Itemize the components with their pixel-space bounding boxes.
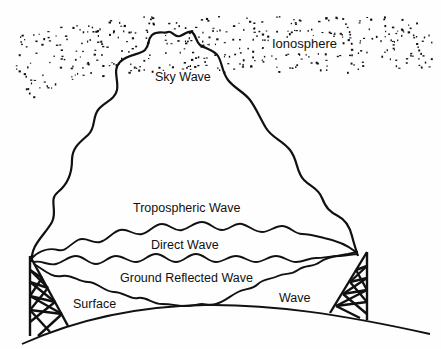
propagation-diagram: Ionosphere Sky Wave Tropospheric Wave Di…: [0, 0, 441, 349]
tropospheric-wave-label: Tropospheric Wave: [133, 202, 240, 215]
ionosphere-band: [16, 16, 433, 98]
sky-wave-label: Sky Wave: [155, 71, 211, 84]
direct-wave-label: Direct Wave: [151, 239, 219, 252]
transmitter-tower: [30, 256, 68, 336]
ground-reflected-wave-label: Ground Reflected Wave: [120, 272, 253, 285]
wave-label: Wave: [279, 292, 311, 305]
ionosphere-label: Ionosphere: [272, 37, 337, 50]
receiver-tower: [330, 252, 367, 320]
surface-label: Surface: [73, 298, 116, 311]
direct-wave-path: [34, 254, 358, 264]
